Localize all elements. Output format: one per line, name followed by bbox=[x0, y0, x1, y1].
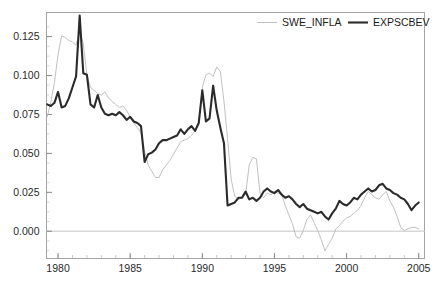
y-axis-tick-label: 0.000 bbox=[13, 225, 39, 237]
x-axis-tick-label: 1995 bbox=[263, 262, 287, 274]
y-axis-tick-label: 0.050 bbox=[13, 147, 39, 159]
legend-label-swe-infla: SWE_INFLA bbox=[282, 16, 342, 28]
x-axis-tick-label: 1985 bbox=[118, 262, 142, 274]
figure-container: 0.0000.0250.0500.0750.1000.1251980198519… bbox=[0, 0, 435, 294]
y-axis-tick-label: 0.075 bbox=[13, 108, 39, 120]
legend-label-expscbev: EXPSCBEV bbox=[373, 16, 430, 28]
x-axis-tick-label: 1980 bbox=[46, 262, 70, 274]
y-axis-tick-label: 0.025 bbox=[13, 186, 39, 198]
line-chart: 0.0000.0250.0500.0750.1000.1251980198519… bbox=[0, 0, 435, 294]
y-axis-tick-label: 0.125 bbox=[13, 30, 39, 42]
y-axis-tick-label: 0.100 bbox=[13, 69, 39, 81]
x-axis-tick-label: 1990 bbox=[191, 262, 215, 274]
x-axis-tick-label: 2000 bbox=[335, 262, 359, 274]
x-axis-tick-label: 2005 bbox=[407, 262, 431, 274]
plot-area-frame bbox=[47, 13, 425, 259]
